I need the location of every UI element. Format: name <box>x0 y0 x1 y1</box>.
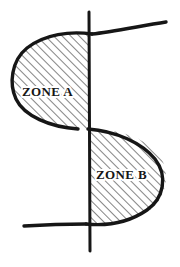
diagram-canvas: ZONE A ZONE A ZONE B ZONE B <box>0 0 180 267</box>
zone-diagram-svg: ZONE A ZONE A ZONE B ZONE B <box>0 0 180 267</box>
zone-b-label-text: ZONE B <box>96 167 147 182</box>
zone-a-label: ZONE A ZONE A <box>22 84 73 99</box>
zone-b-label: ZONE B ZONE B <box>96 167 147 182</box>
scurve-top-arm <box>92 22 166 34</box>
scurve-bottom-arm <box>24 224 86 226</box>
vertical-dividing-line <box>89 12 90 251</box>
zone-a-label-text: ZONE A <box>22 84 73 99</box>
